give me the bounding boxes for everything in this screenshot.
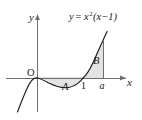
origin-label: O [27, 67, 35, 78]
y-axis-label: y [28, 11, 34, 23]
equation-base: x [83, 11, 89, 22]
y-axis-arrowhead [35, 14, 40, 20]
region-label-b: B [93, 55, 100, 66]
tick-label-a: a [100, 80, 105, 91]
region-a-shading [38, 78, 84, 88]
x-axis-label: x [126, 76, 132, 88]
tick-label-1: 1 [81, 80, 86, 91]
math-figure: y x O 1 a A B y = x 2 (x−1) [0, 0, 142, 120]
equation-lhs: y [68, 11, 74, 22]
equation-label: y = x 2 (x−1) [68, 10, 117, 24]
x-axis-arrowhead [120, 76, 126, 81]
region-label-a: A [61, 81, 69, 92]
equation-equals: = [76, 11, 82, 22]
figure-canvas: y x O 1 a A B y = x 2 (x−1) [0, 0, 142, 120]
equation-factor: (x−1) [93, 11, 117, 23]
